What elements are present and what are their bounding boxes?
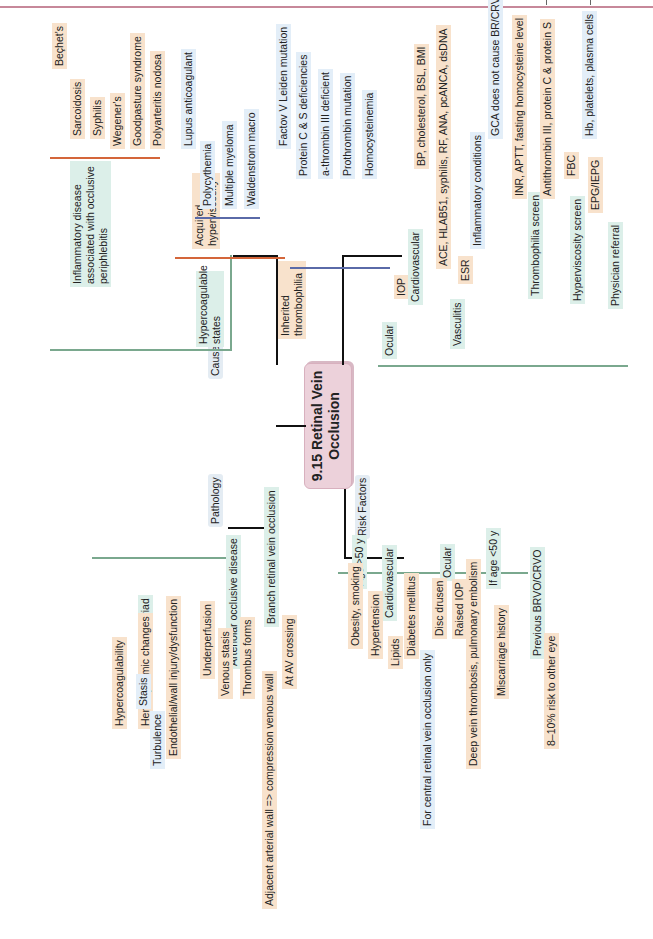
workup-epg: EPG/IEPG <box>588 157 603 213</box>
connector <box>290 267 390 269</box>
workup-thrombo-sub: Antithrombin III, protein C & protein S <box>540 19 555 199</box>
hemodynamic-sub: Stasis <box>136 674 151 709</box>
inherited-thrombophilia-label: Inherited thrombophilia <box>278 261 306 339</box>
inherited-item: Factov V Leiden mutation <box>276 24 291 149</box>
center-title: 9.15 Retinal Vein Occlusion <box>309 371 342 482</box>
inherited-item: Homocysteinemia <box>362 90 377 179</box>
workup-thrombo-sub: INR, APTT, fasting homocysteine level <box>512 15 527 199</box>
workup-vasculitis-sub: ACE, HLAB51, syphilis, RF, ANA, pcANCA, … <box>436 26 451 270</box>
connector <box>195 217 260 219</box>
workup-cardio-sub: BP, cholesterol, BSL, BMI <box>414 44 429 169</box>
branch-rvo-label: Branch retinal vein occlusion <box>264 487 279 627</box>
acquired-item: Waldenstrom macro <box>244 109 259 209</box>
connector <box>175 257 285 259</box>
risk-age-lt50: If age <50 y <box>486 528 501 589</box>
cause-item: Syphilis <box>90 97 105 139</box>
inherited-item: a-thrombin III deficient <box>318 69 333 179</box>
cause-item: Polyarteritis nodosa <box>150 51 165 149</box>
cause-item: Sarcoidosis <box>70 79 85 139</box>
arteriolar-item: Venous stasis <box>218 628 233 699</box>
branch-item: Adjacent arterial wall => compression ve… <box>262 671 277 909</box>
risk-previous-item: 8–10% risk to other eye <box>544 633 559 749</box>
inherited-item: Protein C & S deficiencies <box>296 52 311 179</box>
risk-cardiovascular: Cardiovascular <box>382 545 397 621</box>
workup-thrombophilia: Thrombophilia screen <box>528 192 543 299</box>
connector <box>230 255 232 351</box>
risk-age-item: Miscarriage history <box>494 605 509 699</box>
cause-item: Beçhet's <box>52 23 67 69</box>
risk-previous: Previous BRVO/CRVO <box>530 547 545 659</box>
center-node: 9.15 Retinal Vein Occlusion <box>304 363 352 489</box>
risk-ocular-item: Disc drusen <box>432 578 447 639</box>
workup-hyperviscosity: Hyperviscosity screen <box>570 196 585 304</box>
risk-ocular: Ocular <box>440 544 455 581</box>
workup-iop: IOP <box>394 275 409 299</box>
risk-cardio-item: Lipids <box>388 636 403 669</box>
arteriolar-item: Thrombus forms <box>240 617 255 699</box>
workup-esr: ESR <box>458 256 473 284</box>
connector <box>50 157 160 159</box>
acquired-item: Multiple myeloma <box>222 121 237 209</box>
pathology-label: Pathology <box>208 474 223 527</box>
connector <box>342 255 344 365</box>
cause-item: Goodpasture syndrome <box>130 33 145 149</box>
connector <box>92 557 232 559</box>
acquired-item: Polycythemia <box>200 141 215 209</box>
connector <box>344 489 346 559</box>
workup-physician-referral: Physician referral <box>608 222 623 309</box>
risk-cardio-item: Obesity, smoking <box>348 563 363 649</box>
workup-cardiovascular: Cardiovascular <box>408 229 423 305</box>
virchow-item: Endothelial/wall injury/dysfunction <box>166 596 181 759</box>
branch-item: At AV crossing <box>282 615 297 689</box>
inherited-item: Prothrombin mutation <box>340 73 355 179</box>
connector <box>276 425 306 427</box>
workup-vasculitis: Vasculitis <box>450 299 465 349</box>
connector <box>342 255 402 257</box>
acquired-item: Lupus anticoagulant <box>181 49 196 149</box>
arteriolar-item: Underperfusion <box>200 601 215 679</box>
hypercoagulable-label: Hypercoagulable states <box>196 271 224 347</box>
virchow-item: Hypercoagulability <box>112 637 127 729</box>
inflammatory-disease-label: Inflammatory disease associated with occ… <box>70 161 111 287</box>
cause-item: Wegener's <box>110 93 125 149</box>
risk-factors-label: Risk Factors <box>355 475 370 539</box>
connector <box>378 365 628 367</box>
risk-age-item: Deep vein thrombosis, pulmonary embolism <box>466 559 481 769</box>
mind-map: 9.15 Retinal Vein Occlusion Causes Patho… <box>0 0 653 939</box>
risk-cardio-item: Diabetes mellitus <box>404 573 419 659</box>
workup-fbc-sub: Hb, platelets, plasma cells <box>582 11 597 139</box>
workup-fbc: FBC <box>564 152 579 179</box>
risk-cardio-item: Hypertension <box>368 591 383 659</box>
risk-ocular-item: Raised IOP <box>452 579 467 639</box>
workup-ocular: Ocular <box>382 322 397 359</box>
hemodynamic-sub: Turbulence <box>150 711 165 769</box>
workup-esr-sub2: GCA does not cause BR/CRVO <box>488 0 503 139</box>
workup-esr-sub: Inflammatory conditions <box>470 132 485 249</box>
connector <box>50 349 232 351</box>
risk-dm-sub: For central retinal vein occlusion only <box>420 650 435 829</box>
